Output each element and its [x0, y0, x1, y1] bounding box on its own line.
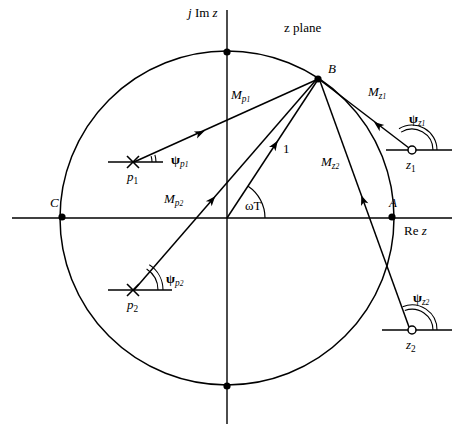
point-C-dot	[58, 213, 65, 220]
vector-label-unit: 1	[283, 142, 290, 155]
vector-label-Mp1: Mp1	[231, 88, 250, 104]
pole-p1-angle-arc	[151, 155, 156, 162]
vector-label-Mz1: Mz1	[368, 85, 386, 101]
angle-label-omega-T: ωT	[245, 199, 262, 212]
vector-Mp1-arrowhead	[194, 127, 206, 138]
point-label-B: B	[328, 62, 336, 75]
vector-label-Mz2: Mz2	[321, 155, 339, 171]
zero-z1-angle-arc	[399, 125, 437, 150]
axis-real-label: Re z	[404, 224, 427, 237]
point-top-dot	[223, 48, 230, 55]
angle-label-psi-p2: ψp2	[166, 272, 183, 288]
axis-imaginary-label: j Im z	[188, 6, 218, 19]
zero-z1-circle-icon	[408, 146, 416, 154]
angle-label-psi-z1: ψz1	[409, 112, 425, 128]
vector-Mz2-arrowhead	[358, 194, 369, 206]
pole-p2-angle-arc	[147, 265, 163, 290]
angle-label-psi-z2: ψz2	[413, 291, 429, 307]
zero-label-z2: z2	[406, 338, 416, 354]
point-label-A: A	[389, 196, 397, 209]
point-bottom-dot	[223, 382, 230, 389]
figure-canvas: j Im z Re z z plane A B C p1 p2 z1 z2 ψp…	[0, 0, 461, 432]
plane-title: z plane	[284, 21, 321, 34]
zero-z2-circle-icon	[408, 326, 416, 334]
vector-unit-arrowhead	[269, 139, 281, 152]
vector-label-Mp2: Mp2	[164, 192, 183, 208]
angle-label-psi-p1: ψp1	[171, 153, 188, 169]
pole-label-p2: p2	[127, 298, 138, 314]
vector-Mp2	[134, 80, 316, 290]
vector-Mz1	[320, 80, 409, 148]
zero-z2-angle-arc	[403, 305, 437, 330]
point-A-dot	[388, 213, 395, 220]
z-plane-diagram	[0, 0, 461, 432]
pole-label-p1: p1	[127, 170, 138, 186]
point-B-dot	[314, 75, 321, 82]
point-label-C: C	[50, 196, 59, 209]
zero-label-z1: z1	[406, 158, 416, 174]
